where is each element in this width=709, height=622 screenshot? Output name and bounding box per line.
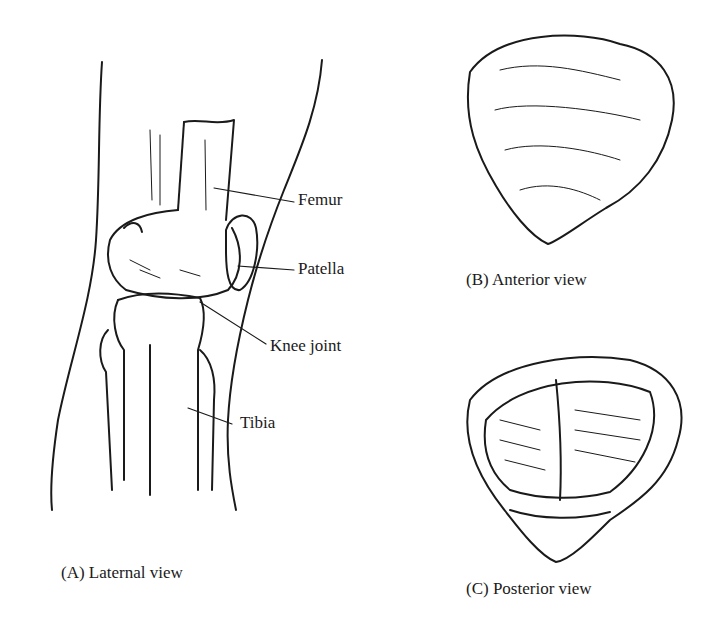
posterior-view-drawing: [467, 357, 681, 562]
caption-posterior-view: (C) Posterior view: [466, 579, 592, 599]
lateral-view-drawing: [51, 60, 322, 510]
label-patella: Patella: [298, 259, 344, 279]
anterior-view-drawing: [468, 36, 674, 244]
label-knee-joint: Knee joint: [270, 336, 341, 356]
caption-anterior-view: (B) Anterior view: [466, 270, 587, 290]
label-femur: Femur: [298, 190, 342, 210]
label-tibia: Tibia: [240, 413, 275, 433]
knee-illustration: [0, 0, 709, 622]
caption-lateral-view: (A) Laternal view: [61, 563, 183, 583]
